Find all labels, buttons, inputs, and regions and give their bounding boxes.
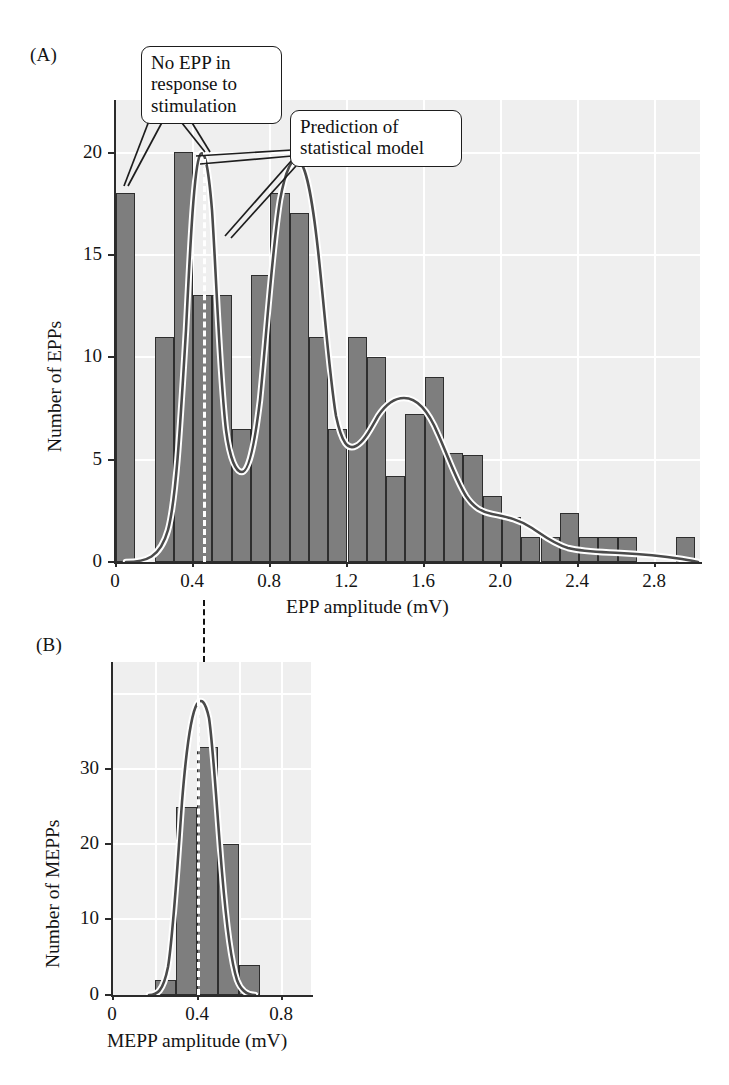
panel-b-xtick-label: 0.8 [258, 1003, 304, 1025]
bar [463, 455, 482, 562]
panel-a-xtick-label: 1.6 [400, 570, 446, 592]
bar [328, 429, 347, 562]
panel-a-x-axis [114, 562, 702, 564]
panel-a-y-axis [114, 100, 116, 564]
bar [232, 429, 251, 562]
bar [386, 476, 405, 562]
panel-b-xtick-label: 0 [92, 1003, 132, 1025]
bar [405, 414, 424, 562]
bar [290, 213, 309, 562]
panel-a-xtick-label: 2.8 [631, 570, 677, 592]
bar [348, 337, 367, 562]
panel-connector-dashed-line [203, 600, 205, 662]
bar [239, 965, 260, 995]
panel-a-letter: (A) [30, 44, 57, 66]
bar [197, 747, 218, 995]
bar [618, 537, 637, 562]
panel-b-ytick-label: 30 [55, 757, 99, 779]
bar [579, 537, 598, 562]
bar [444, 453, 463, 562]
bar [176, 807, 197, 995]
figure-root: (A) [0, 0, 729, 1085]
callout-no-epp: No EPP in response to stimulation [141, 46, 282, 124]
panel-a-ytick-label: 15 [58, 243, 102, 265]
panel-a-xtick-label: 2.4 [554, 570, 600, 592]
panel-a-xtick-label: 1.2 [323, 570, 369, 592]
bar [521, 537, 540, 562]
bar [598, 537, 617, 562]
bar [251, 275, 270, 562]
panel-a-y-axis-title: Number of EPPs [44, 321, 66, 452]
bar [309, 337, 328, 562]
panel-a-quantal-marker [203, 150, 206, 562]
bar [270, 193, 289, 562]
panel-b-ytick-label: 0 [55, 983, 99, 1005]
bar [116, 193, 135, 562]
panel-b-y-axis-title: Number of MEPPs [42, 820, 64, 968]
panel-a-x-axis-title: EPP amplitude (mV) [286, 596, 449, 618]
panel-b-mean-marker [197, 700, 200, 995]
callout-prediction: Prediction of statistical model [290, 110, 462, 167]
bar [541, 537, 560, 562]
bar [174, 152, 193, 562]
panel-a-xtick-label: 0.8 [246, 570, 292, 592]
panel-a-ytick-label: 0 [58, 550, 102, 572]
bar [560, 513, 579, 562]
bar [155, 980, 176, 995]
panel-b-letter: (B) [36, 634, 62, 656]
panel-a-xtick-label: 0 [95, 570, 135, 592]
bar [425, 377, 444, 562]
bar [483, 496, 502, 562]
panel-a-xtick-label: 0.4 [169, 570, 215, 592]
bar [502, 517, 521, 562]
bar [218, 844, 239, 995]
panel-b-y-axis [111, 662, 113, 997]
panel-b-x-axis-title: MEPP amplitude (mV) [107, 1030, 287, 1052]
panel-b-xtick-label: 0.4 [174, 1003, 220, 1025]
bar [367, 357, 386, 562]
bar [212, 295, 231, 562]
panel-a-ytick-label: 20 [58, 141, 102, 163]
bar [676, 537, 695, 562]
bar [155, 337, 174, 562]
panel-a-xtick-label: 2.0 [477, 570, 523, 592]
